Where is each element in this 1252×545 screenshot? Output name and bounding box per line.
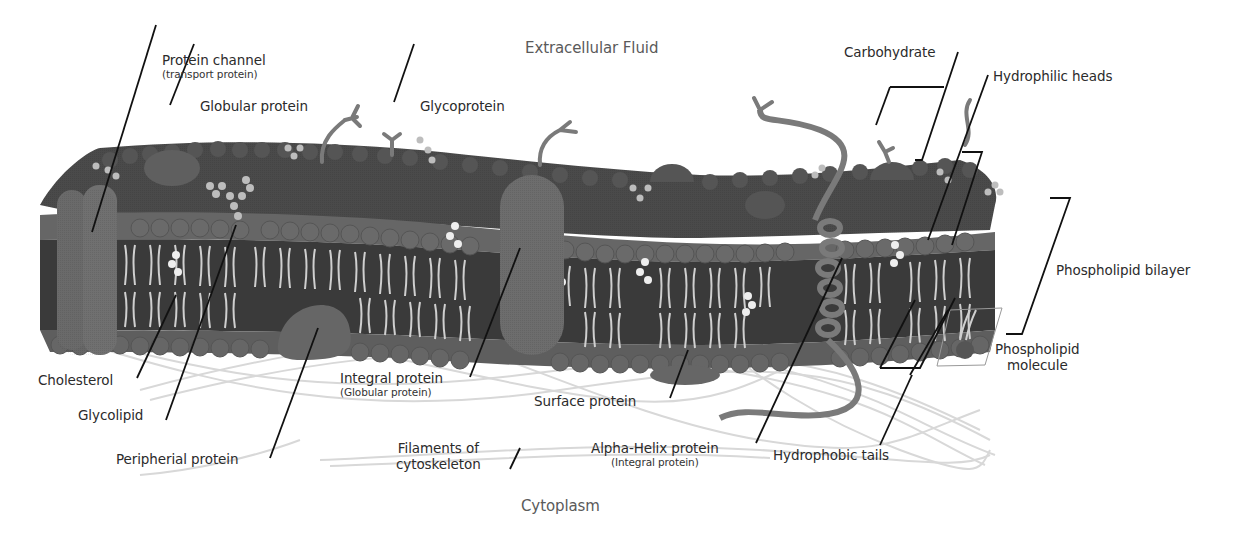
protein-channel xyxy=(57,185,117,355)
globular-protein xyxy=(144,150,200,186)
label-protein-channel-subtitle: (transport protein) xyxy=(162,68,266,81)
region-label-extracellular-fluid: Extracellular Fluid xyxy=(525,40,658,56)
label-carbohydrate: Carbohydrate xyxy=(844,44,935,60)
globular-protein-2 xyxy=(745,191,785,219)
label-filaments-of-cytoskeleton: Filaments of cytoskeleton xyxy=(396,440,481,472)
label-glycolipid: Glycolipid xyxy=(78,407,143,423)
label-phospholipid-molecule-line1: Phospholipid xyxy=(995,341,1080,357)
label-glycoprotein: Glycoprotein xyxy=(420,98,505,114)
label-integral-protein: Integral protein (Globular protein) xyxy=(340,370,443,399)
label-peripheral-protein: Peripherial protein xyxy=(116,451,238,467)
label-integral-protein-subtitle: (Globular protein) xyxy=(340,386,443,399)
label-surface-protein: Surface protein xyxy=(534,393,636,409)
label-phospholipid-bilayer: Phospholipid bilayer xyxy=(1056,262,1190,278)
label-phospholipid-molecule-line2: molecule xyxy=(995,357,1080,373)
label-integral-protein-title: Integral protein xyxy=(340,370,443,386)
dome-protein xyxy=(650,164,694,182)
label-filaments-line1: Filaments of xyxy=(396,440,481,456)
label-hydrophilic-heads: Hydrophilic heads xyxy=(993,68,1112,84)
label-cholesterol: Cholesterol xyxy=(38,372,113,388)
label-alpha-helix-title: Alpha-Helix protein xyxy=(591,440,719,456)
label-alpha-helix-subtitle: (Integral protein) xyxy=(591,456,719,469)
label-globular-protein: Globular protein xyxy=(200,98,308,114)
label-hydrophobic-tails: Hydrophobic tails xyxy=(773,447,889,463)
label-filaments-line2: cytoskeleton xyxy=(396,456,481,472)
cell-membrane-diagram: Extracellular Fluid Cytoplasm Protein ch… xyxy=(0,0,1252,545)
label-phospholipid-molecule: Phospholipid molecule xyxy=(995,341,1080,373)
dome-protein-2 xyxy=(870,162,914,180)
surface-protein xyxy=(650,365,720,385)
label-protein-channel: Protein channel (transport protein) xyxy=(162,52,266,81)
region-label-cytoplasm: Cytoplasm xyxy=(521,498,600,514)
label-protein-channel-title: Protein channel xyxy=(162,52,266,68)
label-alpha-helix-protein: Alpha-Helix protein (Integral protein) xyxy=(591,440,719,469)
